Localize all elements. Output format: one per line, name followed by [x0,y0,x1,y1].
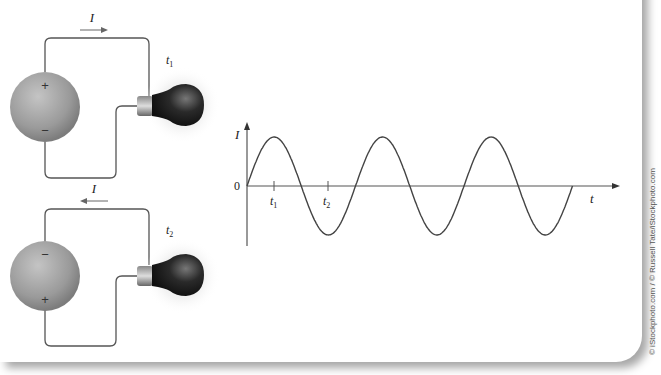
photo-credit: © iStockphoto.com / © Russell Tate/iStoc… [648,168,657,355]
battery-plus-sign: + [41,78,49,93]
current-label-bottom: I [91,181,97,196]
arrow-right-icon [101,27,108,33]
current-label-top: I [89,10,95,25]
tick-label-t1: t1 [270,194,277,210]
y-axis-arrow-icon [244,122,250,130]
current-vs-time-graph: I t 0 t1 t2 [234,122,620,246]
circuit-top: + − I t1 [10,10,220,178]
x-axis-label: t [590,191,594,206]
time-label-t1: t1 [166,53,173,69]
time-label-t2: t2 [166,223,173,239]
figure-frame: + − I t1 − + [0,0,661,375]
tick-label-t2: t2 [323,194,330,210]
battery-minus-sign: − [41,247,49,262]
diagram-canvas: + − I t1 − + [0,0,661,375]
y-axis-label: I [234,127,240,142]
battery-minus-sign: − [41,123,49,138]
x-axis-arrow-icon [612,183,620,189]
origin-label: 0 [234,179,240,193]
battery-plus-sign: + [41,292,49,307]
circuit-bottom: − + I t2 [10,181,220,346]
arrow-left-icon [80,198,87,204]
